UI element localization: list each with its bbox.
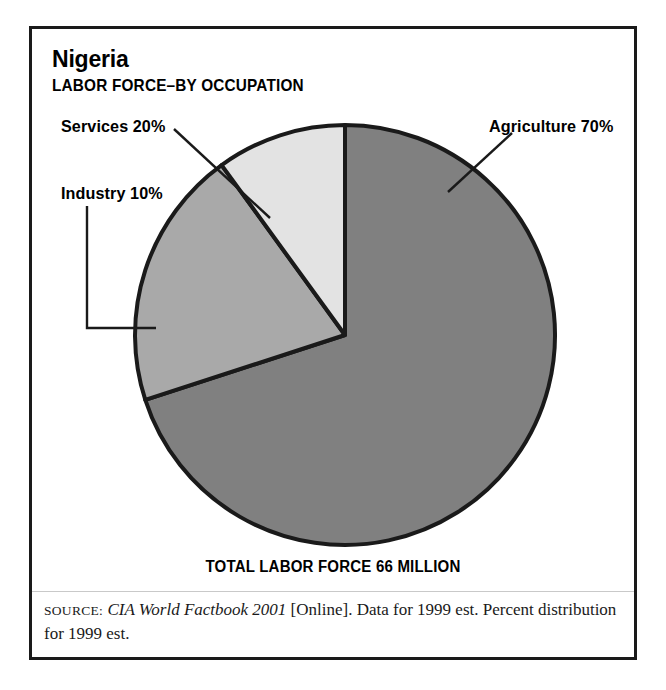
source-note: SOURCE: CIA World Factbook 2001 [Online]… — [44, 598, 624, 645]
slice-label-agriculture: Agriculture 70% — [489, 117, 613, 137]
slice-label-services: Services 20% — [61, 117, 165, 137]
pie-chart-figure: Nigeria LABOR FORCE–BY OCCUPATION Servic… — [0, 0, 666, 690]
total-labor-force-caption: TOTAL LABOR FORCE 66 MILLION — [20, 558, 646, 576]
chart-subtitle: LABOR FORCE–BY OCCUPATION — [52, 76, 304, 95]
source-publication: CIA World Factbook 2001 — [107, 600, 286, 619]
slice-label-industry: Industry 10% — [61, 184, 163, 204]
source-divider — [32, 591, 634, 592]
page-title: Nigeria — [52, 46, 129, 72]
source-label: SOURCE: — [44, 603, 103, 618]
